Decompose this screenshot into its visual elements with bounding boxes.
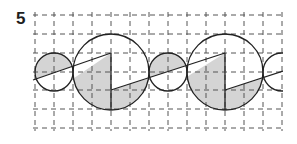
figure-outlines (33, 34, 297, 110)
geometry-figure (0, 0, 297, 144)
